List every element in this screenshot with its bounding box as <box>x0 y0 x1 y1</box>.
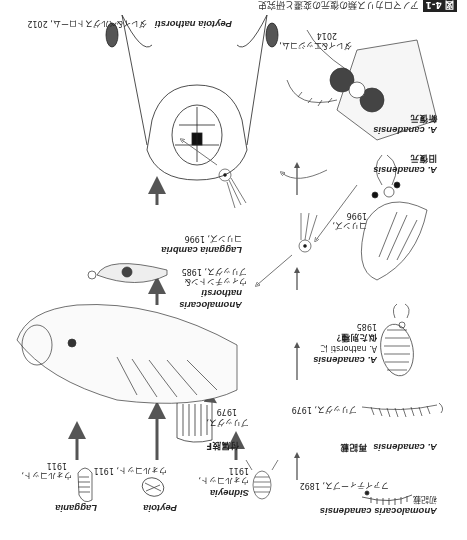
sidneyia-fossil <box>246 460 278 499</box>
canadensis-first-note: 初記載 <box>413 495 437 504</box>
canadensis-first-fossil <box>362 491 412 505</box>
peytoia-nathorsti-drawing <box>106 15 278 180</box>
appendage-f-author: ブリッグス, <box>206 418 249 427</box>
sidneyia-year: 1911 <box>229 466 249 475</box>
canadensis-1979-note: 再記載 <box>340 442 367 452</box>
peytoia-author: ウォルコット, 1911 <box>94 466 167 475</box>
canadensis-1979-name: A. canadensis <box>373 441 437 452</box>
canadensis-2014-year: 2014 <box>317 31 337 40</box>
nathorsti-1985-drawing <box>17 305 237 404</box>
canadensis-1979-drawing <box>362 403 443 417</box>
laggania-name: Laggania <box>55 502 97 513</box>
canadensis-1985-note1: A. nathorsti に <box>320 344 377 353</box>
sidneyia-author: ウォルコット, <box>198 476 249 485</box>
canadensis-1996-author: コリンズ, <box>332 221 367 230</box>
nathorsti-name-1: Anomalocaris <box>179 299 242 310</box>
peytoia-nathorsti-name: Peytoia nathorsti <box>155 18 232 29</box>
figure-caption: 図 4-1アノマロカリス類の復元の変遷と研究史 <box>258 0 457 12</box>
nathorsti-author-1: ウィッチントン& <box>185 277 247 286</box>
canadensis-1985-drawing <box>377 304 418 378</box>
appendage-f-year: 1979 <box>217 407 237 416</box>
canadensis-1996-name: A. canadensis <box>373 164 437 175</box>
peytoia-nathorsti-author: ダレイ&ベルグストローム, 2012 <box>27 19 147 28</box>
canadensis-1996-year: 1996 <box>347 211 367 220</box>
canadensis-1996-note: 旧復元 <box>410 153 437 163</box>
sidneyia-name: Sidneyia <box>210 487 249 498</box>
figure-caption-text: アノマロカリス類の復元の変遷と研究史 <box>258 0 419 10</box>
peytoia-name: Peytoia <box>143 502 177 513</box>
laggania-fossil <box>78 468 92 502</box>
nathorsti-name-2: nathorsti <box>201 287 242 298</box>
laggania-cambria-author: コリンズ, 1996 <box>185 234 242 243</box>
laggania-author: ウォルコット, <box>21 471 72 480</box>
canadensis-2014-note: 新復元 <box>410 113 437 123</box>
laggania-cambria-drawing <box>88 264 167 283</box>
peytoia-fossil <box>140 475 167 499</box>
figure-rotated: Anomalocaris canadensis 初記載 ファイティーブス, 18… <box>0 0 467 540</box>
canadensis-1985-name: A. canadensis <box>313 354 377 365</box>
canadensis-2014-author: ダレイ&エッジコム, <box>279 41 352 50</box>
figure-badge: 図 4-1 <box>423 0 457 12</box>
nathorsti-author-2: ブリッグス, 1985 <box>182 267 247 276</box>
laggania-cambria-name: Laggania cambria <box>161 244 242 255</box>
appendage-f-label: 付属肢F <box>206 440 239 450</box>
canadensis-first-name: Anomalocaris canadensis <box>320 505 437 516</box>
canadensis-first-author: ファイティーブス, 1892 <box>300 481 389 490</box>
oral-cone-small-2 <box>299 213 317 252</box>
canadensis-1979-author: ブリッグス, 1979 <box>292 405 357 414</box>
canadensis-1985-note2: 似た別種？ <box>332 332 377 342</box>
laggania-year: 1911 <box>47 461 67 470</box>
canadensis-2014-name: A. canadensis <box>373 124 437 135</box>
canadensis-1985-year: 1985 <box>357 322 377 331</box>
oral-cone-small-1 <box>219 169 246 208</box>
